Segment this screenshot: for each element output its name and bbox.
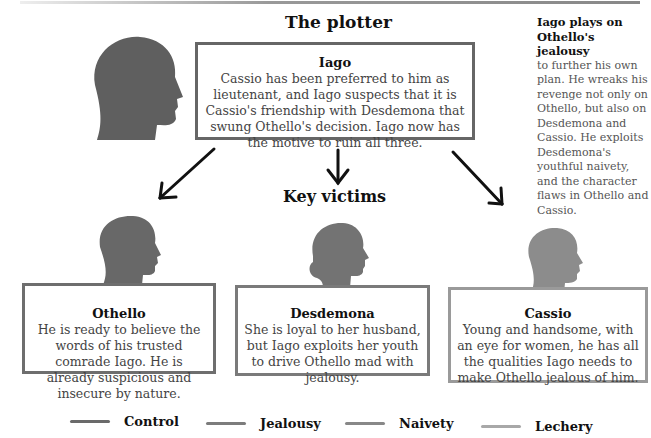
legend-label-jealousy: Jealousy [260,416,321,431]
legend-label-control: Control [124,414,179,429]
victim-description-desdemona: She is loyal to her husband, but Iago ex… [244,322,421,386]
victim-box-othello: Othello He is ready to believe the words… [22,283,216,374]
legend-item-lechery: Lechery [481,419,592,434]
legend-line-lechery [481,425,521,428]
victim-description-cassio: Young and handsome, with an eye for wome… [457,322,639,386]
heading-victims: Key victims [283,187,386,206]
othello-head-icon [95,215,165,285]
legend-label-lechery: Lechery [535,419,592,434]
victim-name-othello: Othello [31,306,207,322]
legend-line-control [70,420,110,423]
desdemona-head-icon [305,222,375,288]
victim-box-desdemona: Desdemona She is loyal to her husband, b… [235,285,430,376]
legend-label-naivety: Naivety [399,416,454,431]
victim-name-cassio: Cassio [457,306,639,322]
cassio-head-icon [523,227,587,293]
victim-box-cassio: Cassio Young and handsome, with an eye f… [448,287,648,383]
victim-name-desdemona: Desdemona [244,306,421,322]
legend-line-jealousy [206,422,246,425]
legend-item-naivety: Naivety [345,416,454,431]
legend-item-control: Control [70,414,179,429]
victim-description-othello: He is ready to believe the words of his … [31,322,207,402]
legend-line-naivety [345,422,385,425]
legend-item-jealousy: Jealousy [206,416,321,431]
